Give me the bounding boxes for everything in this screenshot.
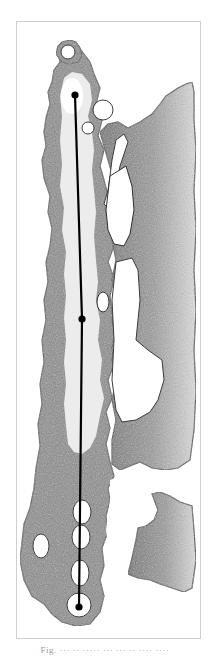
- measurement-point-bottom[interactable]: [75, 603, 82, 610]
- measurement-point-top[interactable]: [71, 91, 78, 98]
- measurement-point-middle[interactable]: [78, 315, 85, 322]
- figure-caption: Fig. ··· ·· ····· ··· ··· ·· ···· ····: [0, 644, 210, 656]
